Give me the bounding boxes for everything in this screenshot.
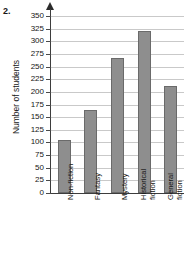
y-axis-tick-label: 100	[31, 138, 44, 146]
gridline	[51, 41, 184, 42]
y-axis-tick	[46, 79, 51, 80]
y-axis-tick	[46, 168, 51, 169]
y-axis-tick-label: 25	[35, 176, 44, 184]
y-axis-tick-label: 250	[31, 63, 44, 71]
y-axis-tick	[46, 117, 51, 118]
y-axis-tick-label: 0	[40, 189, 44, 197]
x-axis-category-label: Historicalfiction	[140, 169, 157, 200]
y-axis-tick	[46, 41, 51, 42]
y-axis-tick-label: 200	[31, 88, 44, 96]
y-axis-tick	[46, 180, 51, 181]
y-axis-title: Number of students	[11, 37, 21, 157]
gridline	[51, 16, 184, 17]
bar-chart-figure: 2. Number of students 025507510012515017…	[0, 0, 184, 258]
x-axis-category-label: Generalfiction	[167, 173, 184, 200]
y-axis-tick	[46, 54, 51, 55]
x-axis-category-label: Mystery	[121, 173, 130, 200]
y-axis-tick-label: 225	[31, 75, 44, 83]
y-axis-tick-label: 150	[31, 113, 44, 121]
y-axis-tick-label: 325	[31, 25, 44, 33]
gridline	[51, 29, 184, 30]
question-number: 2.	[3, 6, 11, 16]
y-axis-tick	[46, 92, 51, 93]
y-axis-tick-label: 50	[35, 164, 44, 172]
y-axis-tick-label: 175	[31, 101, 44, 109]
gridline	[51, 54, 184, 55]
x-axis-category-label: Fantasy	[94, 173, 103, 200]
y-axis-tick	[46, 29, 51, 30]
y-axis-tick-label: 300	[31, 37, 44, 45]
y-axis-tick	[46, 130, 51, 131]
y-axis-tick	[46, 142, 51, 143]
y-axis-tick	[46, 193, 51, 194]
y-axis-tick	[46, 105, 51, 106]
y-axis-tick	[46, 155, 51, 156]
y-axis-tick-label: 75	[35, 151, 44, 159]
x-axis-category-label: Non-fiction	[67, 164, 76, 200]
y-axis-tick-label: 350	[31, 12, 44, 20]
y-axis-tick-label: 125	[31, 126, 44, 134]
y-axis-tick	[46, 67, 51, 68]
y-axis-tick	[46, 16, 51, 17]
y-axis-tick-label: 275	[31, 50, 44, 58]
